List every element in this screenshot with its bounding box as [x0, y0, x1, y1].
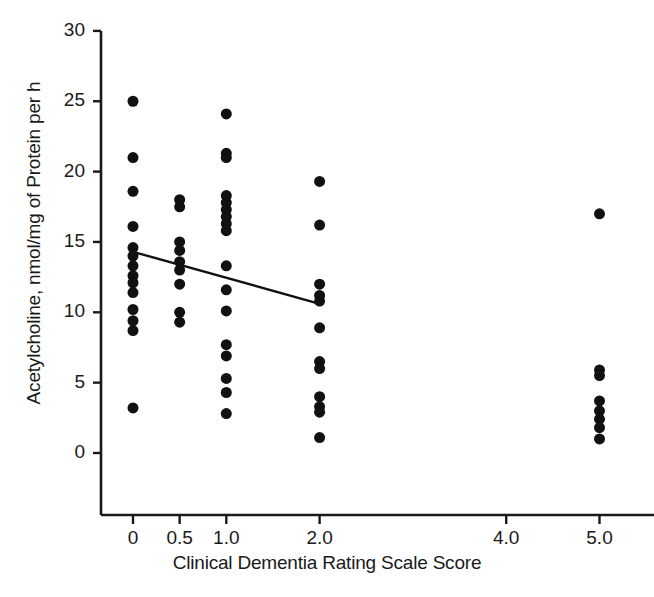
x-axis-tick-label: 2.0: [290, 527, 350, 549]
data-point: [128, 221, 139, 232]
data-point: [174, 201, 185, 212]
data-point: [221, 350, 232, 361]
y-axis-tick-label: 10: [39, 300, 85, 322]
data-point: [314, 432, 325, 443]
regression-line: [133, 252, 320, 304]
data-point: [128, 287, 139, 298]
data-point: [314, 279, 325, 290]
plot-canvas: [0, 0, 654, 597]
data-point: [594, 370, 605, 381]
y-axis-tick-label: 0: [39, 441, 85, 463]
data-point: [594, 433, 605, 444]
data-point: [221, 284, 232, 295]
data-point: [594, 208, 605, 219]
scatter-plot-figure: Acetylcholine, nmol/mg of Protein per h …: [0, 0, 654, 597]
data-point: [221, 373, 232, 384]
data-point: [221, 387, 232, 398]
data-point: [221, 339, 232, 350]
data-point: [221, 108, 232, 119]
data-point: [594, 395, 605, 406]
data-point: [128, 304, 139, 315]
data-point: [128, 325, 139, 336]
data-point: [221, 260, 232, 271]
data-point: [174, 317, 185, 328]
data-point: [314, 322, 325, 333]
data-point: [221, 305, 232, 316]
data-point: [128, 152, 139, 163]
data-point: [221, 408, 232, 419]
data-point: [314, 407, 325, 418]
data-point: [174, 307, 185, 318]
data-point: [221, 225, 232, 236]
data-point: [221, 152, 232, 163]
data-point: [128, 260, 139, 271]
data-point: [128, 96, 139, 107]
data-point: [594, 422, 605, 433]
data-point: [174, 245, 185, 256]
data-point: [314, 176, 325, 187]
y-axis-tick-label: 15: [39, 230, 85, 252]
x-axis-tick-label: 1.0: [196, 527, 256, 549]
y-axis-tick-label: 5: [39, 371, 85, 393]
y-axis-tick-label: 25: [39, 89, 85, 111]
x-axis-tick-label: 4.0: [476, 527, 536, 549]
data-point: [128, 402, 139, 413]
data-point: [174, 279, 185, 290]
y-axis-tick-label: 30: [39, 19, 85, 41]
data-point: [314, 391, 325, 402]
data-point: [314, 363, 325, 374]
data-point: [128, 277, 139, 288]
data-point: [128, 315, 139, 326]
data-point: [128, 186, 139, 197]
y-axis-tick-label: 20: [39, 160, 85, 182]
x-axis-tick-label: 5.0: [570, 527, 630, 549]
data-point: [314, 220, 325, 231]
